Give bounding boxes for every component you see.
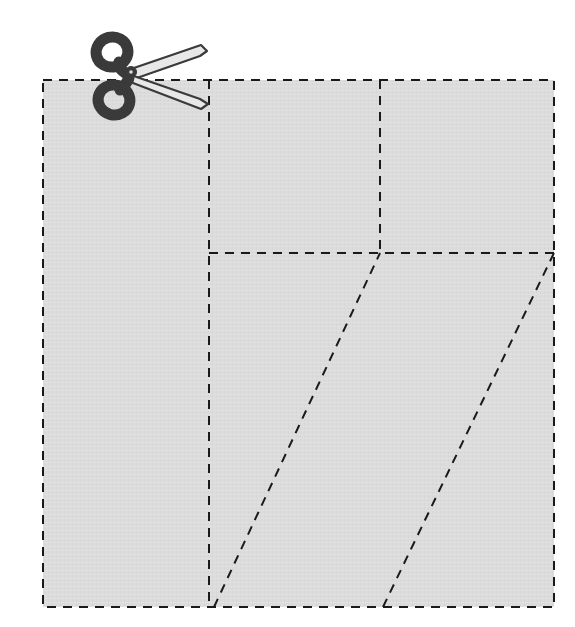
figure-root: Dashed square divided by cut lines with … — [0, 0, 575, 627]
scissors-pivot-center — [129, 70, 133, 74]
diagram-canvas — [0, 0, 575, 627]
square-sheet-fill — [43, 80, 554, 607]
